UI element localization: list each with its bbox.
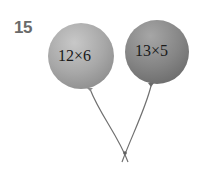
string-knot-icon xyxy=(123,151,127,155)
right-balloon-expression: 13×5 xyxy=(135,42,168,60)
left-balloon-expression: 12×6 xyxy=(58,47,91,65)
left-balloon-string xyxy=(90,89,128,162)
right-balloon-string xyxy=(122,86,151,162)
balloons-illustration xyxy=(0,0,202,176)
